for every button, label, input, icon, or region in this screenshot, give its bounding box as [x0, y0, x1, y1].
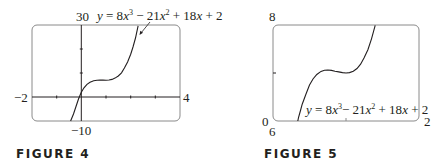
figure-5-xmin-label: 0	[262, 114, 269, 129]
figure-5-ymax-label: 8	[269, 9, 276, 24]
figure-4-xmax-label: 4	[183, 90, 190, 105]
figure-4-caption: FIGURE 4	[16, 147, 90, 161]
figure-5-plot: 8 0 2 6 y = 8x3− 21x2 + 18x + 2	[262, 9, 431, 139]
figures-canvas: 30 −2 4 −10 y = 8x3 − 21x2 + 18x + 2 8 0…	[0, 0, 446, 165]
figure-4-ymin-label: −10	[71, 123, 91, 138]
figure-5-caption: FIGURE 5	[264, 147, 338, 161]
figure-4-plot: 30 −2 4 −10 y = 8x3 − 21x2 + 18x + 2	[14, 8, 223, 138]
figure-4-xmin-label: −2	[14, 90, 28, 105]
figure-4-ymax-label: 30	[76, 9, 89, 24]
figure-4-annotation-leader	[141, 22, 150, 33]
figure-4-equation-label: y = 8x3 − 21x2 + 18x + 2	[95, 8, 223, 23]
figure-5-ymin-label: 6	[269, 124, 276, 139]
figure-5-equation-label: y = 8x3− 21x2 + 18x + 2	[304, 102, 428, 117]
figure-4-viewing-window	[32, 25, 180, 121]
